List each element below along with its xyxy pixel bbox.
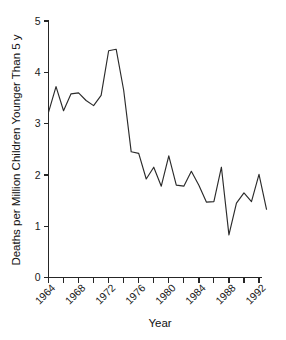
chart-figure: 012345 19641968197219761980198419881992 …	[0, 0, 286, 340]
line-chart-canvas: 012345 19641968197219761980198419881992 …	[0, 0, 286, 340]
y-tick-label: 0	[35, 271, 41, 283]
y-tick-label: 3	[35, 117, 41, 129]
y-tick-label: 1	[35, 220, 41, 232]
y-tick-label: 5	[35, 15, 41, 27]
x-axis-title: Year	[148, 317, 171, 329]
y-tick-label: 4	[35, 66, 41, 78]
y-axis-title: Deaths per Million Children Younger Than…	[10, 34, 22, 265]
y-tick-label: 2	[35, 169, 41, 181]
